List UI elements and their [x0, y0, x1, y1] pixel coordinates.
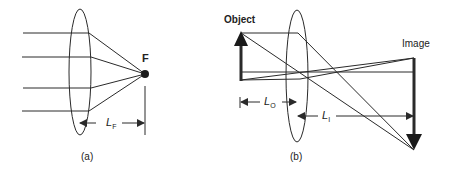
lens-a — [69, 9, 91, 135]
incoming-rays — [22, 33, 91, 111]
object-label: Object — [224, 15, 255, 25]
focal-point-label: F — [142, 53, 149, 64]
panel-b — [234, 10, 422, 150]
focal-length-label: LF — [106, 117, 116, 128]
object-distance-subscript: O — [270, 102, 275, 109]
image-distance-label: LI — [322, 110, 330, 121]
ray-traces — [241, 33, 414, 150]
caption-b: (b) — [290, 152, 302, 162]
lens-diagram — [0, 0, 455, 172]
image-label: Image — [402, 39, 430, 49]
object-distance-label: LO — [264, 96, 276, 107]
object-arrow — [234, 31, 248, 81]
converging-rays — [89, 33, 145, 111]
image-distance-subscript: I — [328, 116, 330, 123]
caption-a: (a) — [81, 152, 93, 162]
focal-point — [141, 70, 149, 78]
panel-a — [22, 9, 149, 135]
focal-length-subscript: F — [112, 123, 116, 130]
